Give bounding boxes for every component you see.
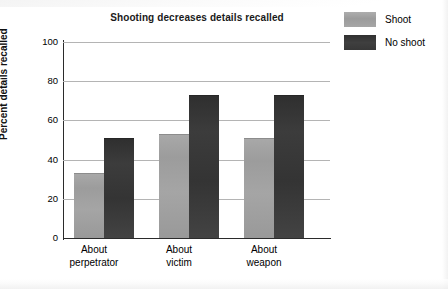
gridline-100: 100: [63, 42, 330, 43]
scan-edge-bottom: [0, 279, 448, 289]
legend-label-no-shoot: No shoot: [385, 37, 425, 48]
bar-no-shoot-victim: [189, 95, 219, 238]
x-tick-label-weapon: About weapon: [214, 244, 314, 269]
chart-title: Shooting decreases details recalled: [63, 12, 331, 24]
y-tick-label-100: 100: [42, 37, 58, 47]
bar-shoot-weapon: [244, 138, 274, 238]
chart-legend: Shoot No shoot: [344, 12, 444, 58]
y-tick-label-80: 80: [47, 76, 58, 86]
legend-item-no-shoot: No shoot: [344, 35, 444, 50]
bar-chart-figure: Shooting decreases details recalled Perc…: [0, 0, 448, 289]
plot-area: 100 80 60 40 20 0: [63, 42, 330, 238]
bar-shoot-perpetrator: [74, 173, 104, 238]
gridline-0: 0: [63, 238, 330, 239]
y-tick-label-20: 20: [47, 194, 58, 204]
gridline-80: 80: [63, 81, 330, 82]
no-shoot-swatch-icon: [344, 35, 376, 50]
x-tick-label-weapon-line1: About: [214, 244, 314, 257]
legend-label-shoot: Shoot: [385, 14, 411, 25]
scan-edge-top: [0, 0, 448, 7]
bar-no-shoot-weapon: [274, 95, 304, 238]
bar-shoot-victim: [159, 134, 189, 238]
y-tick-label-60: 60: [47, 115, 58, 125]
x-tick-label-weapon-line2: weapon: [214, 257, 314, 270]
y-tick-label-0: 0: [53, 233, 58, 243]
legend-item-shoot: Shoot: [344, 12, 444, 27]
bar-no-shoot-perpetrator: [104, 138, 134, 238]
y-axis-title: Percent details recalled: [0, 28, 9, 140]
y-tick-label-40: 40: [47, 155, 58, 165]
shoot-swatch-icon: [344, 12, 376, 27]
